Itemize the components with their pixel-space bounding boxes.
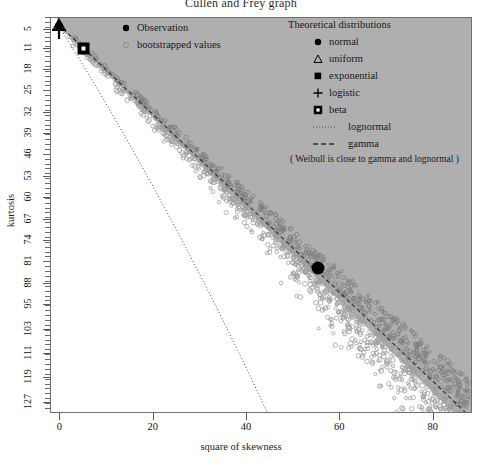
y-tick-label: 39	[22, 122, 33, 144]
bootstrap-point	[339, 319, 343, 323]
y-tick-minor	[45, 56, 50, 57]
y-tick-minor	[45, 276, 50, 277]
bootstrap-point	[409, 406, 414, 411]
y-tick-mark	[43, 283, 50, 284]
y-tick-label: 46	[22, 143, 33, 165]
bootstrap-point	[242, 221, 246, 225]
bootstrap-point	[334, 316, 338, 320]
legend-item-label: Observation	[134, 22, 188, 33]
bootstrap-point	[217, 200, 220, 203]
y-tick-minor	[45, 261, 50, 262]
bootstrap-point	[334, 307, 337, 310]
y-tick-minor	[45, 198, 50, 199]
bootstrap-point	[297, 281, 300, 284]
y-tick-minor	[45, 178, 50, 179]
bootstrap-point	[279, 281, 283, 285]
bootstrap-point	[391, 358, 395, 362]
page-title: Cullen and Frey graph	[0, 0, 482, 10]
y-tick-minor	[45, 168, 50, 169]
y-tick-minor	[45, 296, 50, 297]
y-tick-minor	[45, 159, 50, 160]
y-tick-minor	[45, 144, 50, 145]
y-tick-minor	[45, 125, 50, 126]
y-tick-minor	[45, 120, 50, 121]
cullen-frey-chart: Cullen and Frey graph	[0, 0, 482, 462]
y-tick-minor	[45, 227, 50, 228]
y-tick-minor	[45, 242, 50, 243]
bootstrap-point	[279, 255, 282, 258]
legend-item-lognormal: lognormal	[288, 118, 478, 135]
open-triangle-icon	[310, 53, 326, 65]
legend-item-label: uniform	[326, 53, 363, 64]
bootstrap-point	[396, 386, 400, 390]
y-tick-minor	[45, 100, 50, 101]
legend-item-label: bootstrapped values	[134, 39, 221, 50]
legend-item-label: exponential	[326, 70, 378, 81]
x-tick-mark	[153, 413, 154, 420]
y-tick-minor	[45, 115, 50, 116]
y-tick-minor	[45, 110, 50, 111]
bootstrap-point	[429, 397, 432, 400]
y-tick-minor	[45, 76, 50, 77]
y-tick-minor	[45, 46, 50, 47]
y-tick-minor	[45, 291, 50, 292]
y-tick-minor	[45, 105, 50, 106]
x-tick-mark	[59, 413, 60, 420]
y-tick-mark	[43, 219, 50, 220]
y-tick-minor	[45, 81, 50, 82]
y-tick-minor	[45, 408, 50, 409]
y-tick-label: 74	[22, 228, 33, 250]
y-tick-minor	[45, 95, 50, 96]
y-tick-minor	[45, 61, 50, 62]
bootstrap-point	[387, 382, 391, 386]
y-tick-mark	[43, 176, 50, 177]
y-tick-minor	[45, 364, 50, 365]
y-tick-minor	[45, 335, 50, 336]
bootstrap-point	[333, 343, 337, 347]
y-tick-minor	[45, 369, 50, 370]
y-tick-label: 119	[22, 366, 33, 388]
open-circle-icon	[118, 39, 134, 51]
bootstrap-point	[370, 355, 374, 359]
square-with-dot-icon	[310, 104, 326, 116]
filled-circle-icon	[310, 36, 326, 48]
y-axis-title: kurtosis	[5, 171, 16, 251]
filled-circle-icon	[118, 22, 134, 34]
y-tick-minor	[45, 173, 50, 174]
y-tick-minor	[45, 183, 50, 184]
y-tick-minor	[45, 300, 50, 301]
y-tick-minor	[45, 340, 50, 341]
y-tick-minor	[45, 320, 50, 321]
bootstrap-point	[147, 118, 152, 123]
y-tick-minor	[45, 315, 50, 316]
bootstrap-point	[395, 410, 399, 412]
y-tick-minor	[45, 71, 50, 72]
y-tick-minor	[45, 85, 50, 86]
y-tick-minor	[45, 281, 50, 282]
legend-item-bootstrapped-values: bootstrapped values	[118, 36, 248, 53]
legend-item-label: logistic	[326, 87, 360, 98]
y-tick-minor	[45, 188, 50, 189]
y-tick-minor	[45, 305, 50, 306]
y-tick-label: 127	[22, 390, 33, 412]
y-tick-minor	[45, 232, 50, 233]
legend-title: Theoretical distributions	[288, 19, 478, 30]
x-tick-label: 20	[138, 421, 168, 432]
bootstrap-point	[377, 353, 381, 357]
filled-square-icon	[310, 70, 326, 82]
legend-item-logistic: logistic	[288, 84, 478, 101]
bootstrap-point	[397, 391, 400, 394]
legend-observation: Observationbootstrapped values	[118, 19, 248, 53]
y-tick-minor	[45, 32, 50, 33]
y-tick-minor	[45, 266, 50, 267]
legend-items: normaluniformexponentiallogisticbetalogn…	[288, 33, 478, 152]
y-tick-minor	[45, 17, 50, 18]
bootstrap-point	[411, 395, 415, 399]
bootstrap-point	[209, 186, 212, 189]
legend-item-label: normal	[326, 36, 359, 47]
y-tick-minor	[45, 252, 50, 253]
y-tick-minor	[45, 41, 50, 42]
y-tick-label: 60	[22, 186, 33, 208]
bootstrap-point	[275, 250, 279, 254]
bootstrap-point	[314, 300, 319, 305]
